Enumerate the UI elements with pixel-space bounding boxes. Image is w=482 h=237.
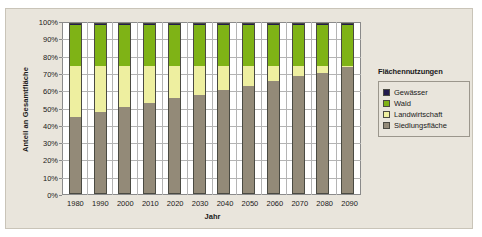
bar-segment [94, 112, 107, 194]
x-tick-label: 2030 [188, 199, 213, 208]
bar-column[interactable] [316, 23, 329, 194]
legend-swatch-icon [383, 111, 390, 118]
bar-segment [143, 66, 156, 104]
bar-segment [193, 95, 206, 194]
bar-column[interactable] [193, 23, 206, 194]
legend-item[interactable]: Wald [383, 99, 465, 108]
bar-segment [267, 25, 280, 66]
bar-column[interactable] [267, 23, 280, 194]
bar-segment [193, 25, 206, 66]
bar-segment [118, 107, 131, 194]
bar-segment [118, 66, 131, 107]
legend-box: GewässerWaldLandwirtschaftSiedlungsfläch… [378, 81, 470, 137]
bar-segment [168, 66, 181, 98]
legend-label: Wald [394, 99, 411, 108]
legend: Flächennutzungen GewässerWaldLandwirtsch… [378, 67, 470, 137]
x-axis-ticks: 1980199020002010202020302040205020602070… [63, 199, 362, 208]
x-tick-label: 1990 [88, 199, 113, 208]
y-tick-label: 70% [43, 69, 58, 78]
y-tick-mark [59, 178, 62, 179]
legend-item[interactable]: Landwirtschaft [383, 110, 465, 119]
legend-swatch-icon [383, 89, 390, 96]
bar-segment [316, 66, 329, 73]
bar-segment [193, 66, 206, 95]
y-tick-label: 30% [43, 139, 58, 148]
bar-segment [316, 73, 329, 194]
bar-segment [217, 66, 230, 90]
bar-column[interactable] [242, 23, 255, 194]
bar-segment [292, 25, 305, 66]
x-tick-label: 2050 [237, 199, 262, 208]
bar-segment [143, 25, 156, 66]
bar-segment [217, 90, 230, 194]
x-tick-label: 2060 [262, 199, 287, 208]
y-tick-mark [59, 74, 62, 75]
bar-segment [94, 25, 107, 66]
bar-segment [69, 117, 82, 194]
bar-column[interactable] [118, 23, 131, 194]
bar-segment [316, 25, 329, 66]
y-tick-label: 100% [39, 18, 58, 27]
bar-segment [292, 76, 305, 194]
chart-screenshot: Anteil an Gesamtfläche 0%10%20%30%40%50%… [0, 0, 482, 237]
bar-column[interactable] [341, 23, 354, 194]
bar-segment [168, 98, 181, 194]
legend-item[interactable]: Gewässer [383, 88, 465, 97]
bar-segment [143, 103, 156, 194]
y-tick-mark [59, 126, 62, 127]
bar-column[interactable] [69, 23, 82, 194]
legend-title: Flächennutzungen [378, 67, 470, 76]
y-tick-label: 80% [43, 52, 58, 61]
bar-column[interactable] [143, 23, 156, 194]
x-tick-label: 2070 [287, 199, 312, 208]
bar-column[interactable] [217, 23, 230, 194]
bar-segment [69, 66, 82, 117]
y-tick-mark [59, 109, 62, 110]
bar-segment [217, 25, 230, 66]
bar-segment [341, 25, 354, 66]
y-tick-label: 50% [43, 104, 58, 113]
y-tick-label: 40% [43, 121, 58, 130]
x-tick-label: 2010 [138, 199, 163, 208]
y-tick-label: 20% [43, 156, 58, 165]
bar-segment [267, 66, 280, 81]
legend-swatch-icon [383, 100, 390, 107]
y-tick-mark [59, 39, 62, 40]
x-tick-label: 2040 [213, 199, 238, 208]
y-tick-label: 60% [43, 87, 58, 96]
y-tick-label: 0% [47, 191, 58, 200]
y-axis-title: Anteil an Gesamtfläche [21, 45, 30, 175]
bar-column[interactable] [168, 23, 181, 194]
bar-segment [94, 66, 107, 112]
y-tick-mark [59, 195, 62, 196]
bar-segment [242, 86, 255, 194]
y-tick-mark [59, 143, 62, 144]
bar-segment [242, 25, 255, 66]
y-tick-mark [59, 91, 62, 92]
legend-label: Landwirtschaft [394, 110, 442, 119]
bar-segment [69, 25, 82, 66]
x-tick-label: 2080 [312, 199, 337, 208]
bar-column[interactable] [292, 23, 305, 194]
chart-card: Anteil an Gesamtfläche 0%10%20%30%40%50%… [5, 8, 473, 229]
bar-segment [242, 66, 255, 87]
y-tick-mark [59, 22, 62, 23]
plot-wrapper: 0%10%20%30%40%50%60%70%80%90%100% [62, 22, 361, 195]
legend-label: Siedlungsfläche [394, 121, 447, 130]
x-tick-label: 2020 [163, 199, 188, 208]
bar-segment [168, 25, 181, 66]
x-tick-label: 2090 [337, 199, 362, 208]
x-tick-label: 2000 [113, 199, 138, 208]
legend-item[interactable]: Siedlungsfläche [383, 121, 465, 130]
bar-segment [267, 81, 280, 194]
bar-segment [341, 67, 354, 194]
y-tick-label: 90% [43, 35, 58, 44]
bar-series-group [63, 23, 360, 194]
y-tick-mark [59, 57, 62, 58]
x-tick-label: 1980 [63, 199, 88, 208]
legend-swatch-icon [383, 122, 390, 129]
bar-segment [292, 66, 305, 76]
y-tick-label: 10% [43, 173, 58, 182]
y-tick-mark [59, 160, 62, 161]
bar-column[interactable] [94, 23, 107, 194]
